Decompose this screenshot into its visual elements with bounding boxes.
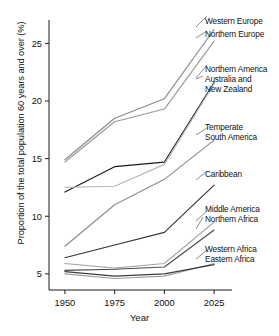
series-label: Temperate: [205, 122, 243, 132]
chart-canvas: 510152025 1950197520002025: [0, 0, 279, 336]
y-tick-label: 25: [32, 39, 42, 49]
x-tick-label: 2000: [154, 298, 175, 308]
series-label: Western Europe: [205, 16, 263, 26]
x-tick-label: 1950: [55, 298, 76, 308]
series-label: Western Africa: [205, 244, 257, 254]
y-axis-ticks: 510152025: [32, 39, 49, 280]
series-label: Northern America: [205, 64, 267, 74]
series-label: Caribbean: [205, 169, 242, 179]
series-label: Australia and: [205, 74, 251, 84]
x-tick-label: 2025: [204, 298, 225, 308]
series-label: New Zealand: [205, 84, 252, 94]
y-tick-label: 10: [32, 212, 42, 222]
series-line: [65, 230, 214, 270]
y-tick-label: 5: [37, 269, 42, 279]
series-label: Middle America: [205, 204, 260, 214]
series-line: [65, 41, 214, 162]
chart-container: 510152025 1950197520002025 Proportion of…: [0, 0, 279, 336]
series-label: South America: [205, 132, 257, 142]
series-label: Northern Europe: [205, 29, 264, 39]
x-axis-ticks: 1950197520002025: [55, 290, 225, 308]
y-tick-label: 15: [32, 154, 42, 164]
series-line: [65, 84, 214, 188]
x-tick-label: 1975: [104, 298, 125, 308]
y-axis-label: Proportion of the total population 60 ye…: [16, 8, 26, 258]
x-axis-label: Year: [0, 312, 279, 323]
series-line: [65, 30, 214, 160]
series-line: [65, 140, 214, 246]
series-line: [65, 222, 214, 268]
series-lines: [65, 30, 214, 279]
leader-line: [196, 217, 203, 229]
y-tick-label: 20: [32, 96, 42, 106]
series-label: Eastern Africa: [205, 254, 255, 264]
series-label: Northern Africa: [205, 214, 258, 224]
